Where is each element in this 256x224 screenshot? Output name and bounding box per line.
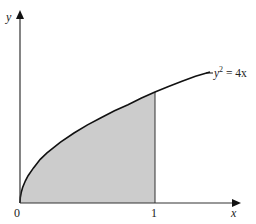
x-tick-label-1: 1 [151,206,157,220]
y-axis-arrow-icon [16,10,24,19]
diagram-canvas: y x 0 1 y2 = 4x [0,0,256,224]
x-axis-label: x [230,206,237,220]
curve-label-rhs: = 4x [223,67,247,79]
curve-label: y2 = 4x [213,65,247,80]
shaded-region [20,92,155,203]
origin-label: 0 [14,206,20,220]
y-axis-label: y [5,10,12,24]
